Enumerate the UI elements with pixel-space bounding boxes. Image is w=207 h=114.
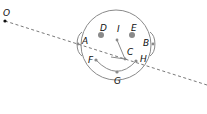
label-d: D <box>100 23 107 33</box>
segment-ic <box>117 40 125 59</box>
label-o: O <box>3 8 10 18</box>
label-i: I <box>117 24 120 34</box>
label-e: E <box>131 23 137 33</box>
point-a <box>77 43 80 46</box>
label-a: A <box>81 36 88 46</box>
label-h: H <box>140 54 147 64</box>
point-h <box>134 59 137 62</box>
point-f <box>94 58 97 61</box>
point-i <box>116 39 119 42</box>
label-c: C <box>127 47 134 57</box>
point-o <box>3 19 6 22</box>
point-g <box>115 70 118 73</box>
head-circle <box>81 10 151 80</box>
label-g: G <box>114 76 121 86</box>
label-f: F <box>88 55 94 65</box>
mouth-arc <box>96 60 136 71</box>
label-b: B <box>143 38 149 48</box>
point-b <box>152 43 155 46</box>
point-c <box>124 58 127 61</box>
face-diagram: O A B C D E F G H I <box>0 0 207 114</box>
